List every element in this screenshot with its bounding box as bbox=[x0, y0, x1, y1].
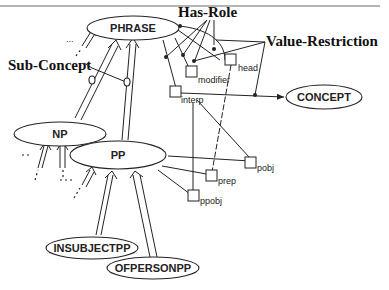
concept-node-insubjectpp[interactable]: INSUBJECTPP bbox=[46, 237, 138, 259]
role-label-modifier: modifier bbox=[198, 75, 230, 85]
svg-text:PP: PP bbox=[111, 149, 126, 161]
svg-text:NP: NP bbox=[52, 128, 67, 140]
concept-node-concept[interactable]: CONCEPT bbox=[286, 85, 362, 109]
subconcept-arrows-into-np bbox=[22, 141, 72, 180]
value-restriction-label: Value-Restriction bbox=[266, 33, 379, 49]
concept-node-pp[interactable]: PP bbox=[70, 141, 166, 169]
svg-text:OFPERSONPP: OFPERSONPP bbox=[115, 262, 191, 274]
sub-concept-joint-2 bbox=[124, 78, 130, 86]
ellipsis-top: ... bbox=[66, 34, 74, 44]
sub-concept-joint-1 bbox=[89, 76, 95, 84]
sub-concept-label: Sub-Concept bbox=[8, 57, 91, 73]
role-label-pobj: pobj bbox=[257, 163, 274, 173]
subconcept-arrow-insubjectpp-pp bbox=[96, 171, 117, 235]
svg-text:CONCEPT: CONCEPT bbox=[297, 91, 351, 103]
role-label-prep: prep bbox=[218, 176, 236, 186]
role-label-ppobj: ppobj bbox=[200, 196, 222, 206]
role-box-modifier[interactable] bbox=[186, 66, 197, 77]
subconcept-arrow-more-pp bbox=[74, 167, 96, 198]
svg-text:INSUBJECTPP: INSUBJECTPP bbox=[53, 242, 130, 254]
role-box-head[interactable] bbox=[225, 54, 236, 65]
role-label-head: head bbox=[238, 63, 258, 73]
svg-text:PHRASE: PHRASE bbox=[110, 22, 156, 34]
role-box-pobj[interactable] bbox=[245, 157, 256, 168]
kl-one-diagram: Sub-Concept Has- bbox=[0, 0, 389, 290]
has-role-label: Has-Role bbox=[178, 4, 238, 20]
role-links-pp bbox=[158, 156, 250, 197]
subconcept-arrow-np-phrase bbox=[75, 40, 121, 120]
concept-node-ofpersonpp[interactable]: OFPERSONPP bbox=[107, 257, 199, 279]
role-box-interp[interactable] bbox=[170, 86, 181, 97]
concept-node-np[interactable]: NP bbox=[14, 122, 106, 146]
role-box-ppobj[interactable] bbox=[188, 190, 199, 201]
subconcept-arrow-pp-phrase bbox=[122, 38, 139, 140]
role-box-prep[interactable] bbox=[206, 170, 217, 181]
concept-node-phrase[interactable]: PHRASE bbox=[87, 16, 179, 40]
